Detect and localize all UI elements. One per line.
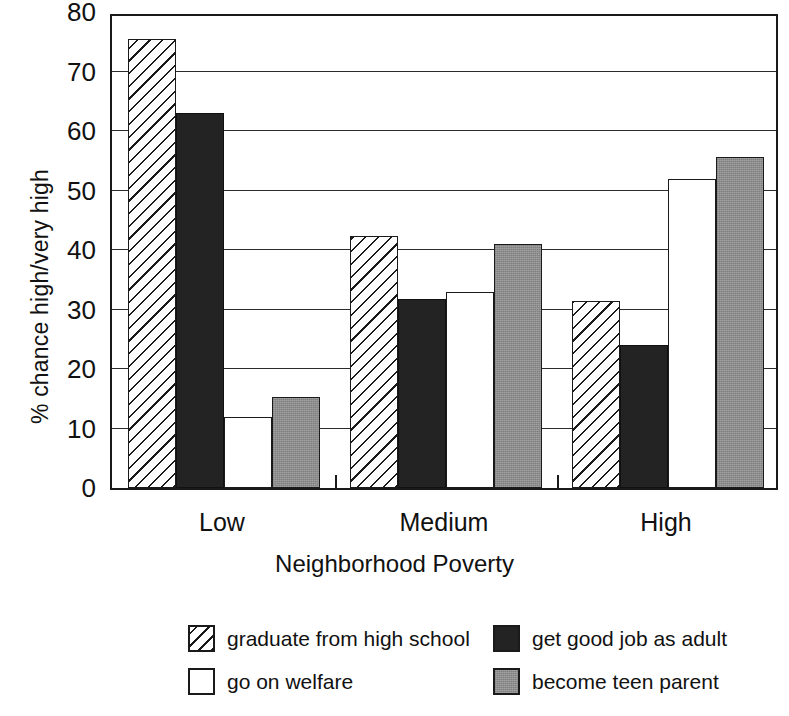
legend-label: become teen parent <box>532 670 719 694</box>
bar-high-series-1 <box>572 301 620 488</box>
x-axis-title: Neighborhood Poverty <box>0 550 789 578</box>
chart-legend: graduate from high schoolget good job as… <box>188 617 748 703</box>
x-category-label-high: High <box>570 508 762 537</box>
legend-swatch-gray-icon <box>493 668 520 695</box>
y-tick-label-0: 0 <box>0 475 96 501</box>
bar-medium-series-4 <box>494 244 542 488</box>
bar-medium-series-3 <box>446 292 494 488</box>
bar-high-series-2 <box>620 345 668 488</box>
bar-high-series-3 <box>668 179 716 488</box>
bar-high-series-4 <box>716 157 764 488</box>
legend-label: get good job as adult <box>532 627 727 651</box>
y-tick-label-60: 60 <box>0 118 96 144</box>
bars-layer <box>112 16 776 488</box>
legend-item-gray[interactable]: become teen parent <box>493 668 748 695</box>
bar-medium-series-2 <box>398 299 446 488</box>
y-tick-label-40: 40 <box>0 237 96 263</box>
y-tick-label-70: 70 <box>0 59 96 85</box>
bar-low-series-1 <box>128 39 176 488</box>
x-axis-tick-1 <box>557 475 559 488</box>
y-axis-tick-labels: 01020304050607080 <box>0 0 100 716</box>
bar-low-series-2 <box>176 113 224 488</box>
x-axis-tick-0 <box>335 475 337 488</box>
legend-swatch-black-icon <box>493 625 520 652</box>
bar-medium-series-1 <box>350 236 398 488</box>
legend-label: graduate from high school <box>227 627 470 651</box>
legend-label: go on welfare <box>227 670 353 694</box>
y-tick-label-80: 80 <box>0 0 96 25</box>
y-tick-label-50: 50 <box>0 178 96 204</box>
legend-swatch-hatch-icon <box>188 625 215 652</box>
bar-chart-figure: % chance high/very high 0102030405060708… <box>0 0 789 716</box>
legend-item-white[interactable]: go on welfare <box>188 668 493 695</box>
bar-low-series-3 <box>224 417 272 488</box>
plot-area <box>110 14 778 490</box>
x-category-label-low: Low <box>126 508 318 537</box>
y-tick-label-20: 20 <box>0 356 96 382</box>
y-tick-label-10: 10 <box>0 416 96 442</box>
y-tick-label-30: 30 <box>0 297 96 323</box>
x-category-label-medium: Medium <box>348 508 540 537</box>
legend-item-hatch[interactable]: graduate from high school <box>188 625 493 652</box>
legend-item-black[interactable]: get good job as adult <box>493 625 748 652</box>
legend-swatch-white-icon <box>188 668 215 695</box>
bar-low-series-4 <box>272 397 320 488</box>
